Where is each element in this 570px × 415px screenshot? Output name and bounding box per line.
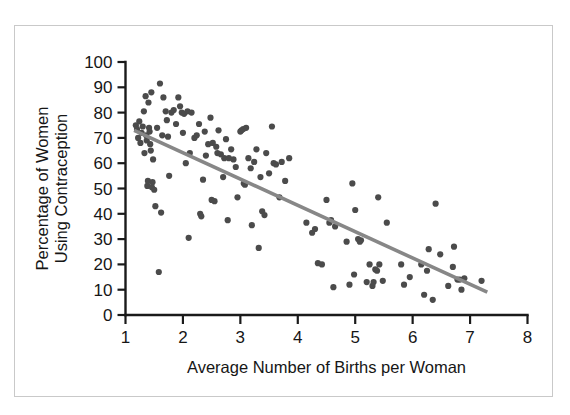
data-point (200, 177, 206, 183)
data-point (183, 160, 189, 166)
x-tick-label: 6 (408, 328, 417, 347)
data-point (243, 125, 249, 131)
data-point (165, 134, 171, 140)
data-point (158, 209, 164, 215)
data-point (230, 156, 236, 162)
data-point (220, 174, 226, 180)
data-point (358, 237, 364, 243)
data-point (194, 132, 200, 138)
data-point (141, 108, 147, 114)
data-point (478, 278, 484, 284)
data-point (148, 147, 154, 153)
data-point (303, 220, 309, 226)
data-point (233, 164, 239, 170)
data-point (312, 226, 318, 232)
x-tick-label: 4 (293, 328, 302, 347)
data-point (374, 268, 380, 274)
data-point (450, 264, 456, 270)
data-point (147, 141, 153, 147)
data-point (207, 115, 213, 121)
data-point (188, 110, 194, 116)
data-point (286, 155, 292, 161)
data-point (147, 128, 153, 134)
data-point (234, 194, 240, 200)
data-point (330, 284, 336, 290)
scatter-plot: 010203040506070809010012345678Average Nu… (0, 0, 570, 415)
data-point (433, 201, 439, 207)
data-point (352, 207, 358, 213)
data-point (152, 203, 158, 209)
data-point (266, 170, 272, 176)
data-point (198, 213, 204, 219)
y-tick-label: 100 (84, 53, 112, 72)
y-tick-label: 10 (94, 281, 113, 300)
data-point (273, 161, 279, 167)
data-point (159, 132, 165, 138)
y-axis-title-line1: Percentage of Women (33, 107, 51, 271)
data-point (140, 123, 146, 129)
data-point (228, 146, 234, 152)
data-point (196, 121, 202, 127)
data-point (424, 268, 430, 274)
data-point (344, 239, 350, 245)
data-point (137, 140, 143, 146)
data-point (263, 150, 269, 156)
y-tick-label: 30 (94, 230, 113, 249)
y-tick-label: 60 (94, 154, 113, 173)
axis-labels-group: 010203040506070809010012345678Average Nu… (33, 53, 532, 376)
data-point (256, 245, 262, 251)
data-point (213, 144, 219, 150)
data-point (211, 198, 217, 204)
y-tick-label: 20 (94, 255, 113, 274)
y-tick-label: 90 (94, 78, 113, 97)
data-point (145, 99, 151, 105)
y-axis-title-line2: Using Contraception (52, 114, 70, 264)
data-point (160, 94, 166, 100)
data-point (375, 194, 381, 200)
data-point (149, 179, 155, 185)
data-point (458, 287, 464, 293)
x-tick-label: 8 (523, 328, 532, 347)
data-point (175, 94, 181, 100)
x-tick-label: 5 (350, 328, 359, 347)
data-point (380, 278, 386, 284)
y-tick-label: 40 (94, 205, 113, 224)
data-point (203, 153, 209, 159)
data-point (426, 246, 432, 252)
data-point (154, 125, 160, 131)
data-point (407, 274, 413, 280)
data-point (445, 283, 451, 289)
y-tick-label: 70 (94, 129, 113, 148)
data-point (384, 220, 390, 226)
data-points-group (133, 80, 485, 303)
data-point (163, 108, 169, 114)
data-point (451, 244, 457, 250)
data-point (398, 261, 404, 267)
data-point (150, 156, 156, 162)
data-point (370, 279, 376, 285)
data-point (323, 197, 329, 203)
y-tick-label: 0 (103, 306, 112, 325)
data-point (166, 173, 172, 179)
data-point (186, 235, 192, 241)
data-point (346, 282, 352, 288)
data-point (249, 222, 255, 228)
data-point (430, 297, 436, 303)
x-tick-label: 1 (121, 328, 130, 347)
x-tick-label: 3 (236, 328, 245, 347)
data-point (143, 93, 149, 99)
data-point (253, 146, 259, 152)
data-point (349, 180, 355, 186)
data-point (282, 178, 288, 184)
data-point (351, 271, 357, 277)
data-point (376, 261, 382, 267)
data-point (257, 174, 263, 180)
data-point (319, 261, 325, 267)
data-point (251, 159, 257, 165)
data-point (248, 165, 254, 171)
y-tick-label: 80 (94, 104, 113, 123)
data-point (225, 217, 231, 223)
data-point (437, 251, 443, 257)
data-point (261, 212, 267, 218)
figure-root: 010203040506070809010012345678Average Nu… (0, 0, 570, 415)
